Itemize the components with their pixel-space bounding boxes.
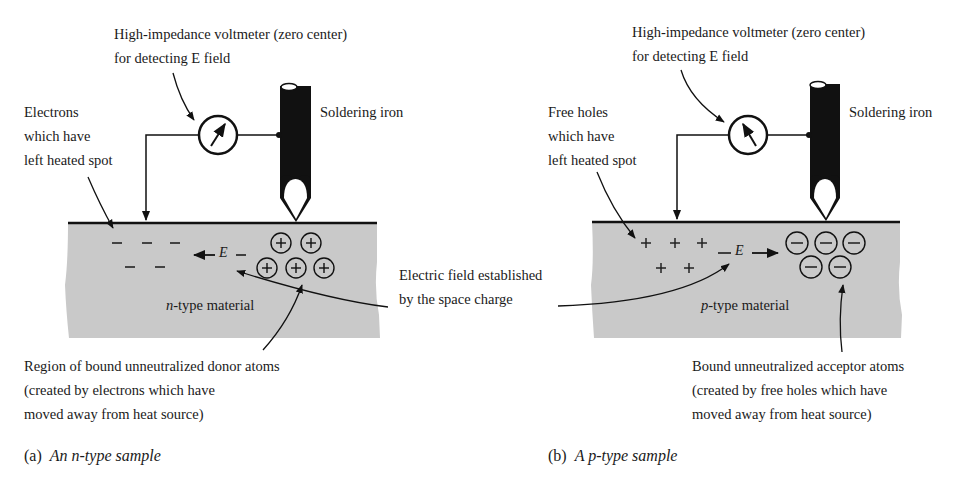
bound-label-line1: Bound unneutralized acceptor atoms [692,354,904,378]
n-type-material-slab [65,223,380,338]
material-type-suffix: -type material [708,297,789,313]
field-annotation-line1: Electric field established [399,263,542,287]
panel-a-iron-label: Soldering iron [320,100,403,124]
panel-b-voltmeter-label: High-impedance voltmeter (zero center) f… [632,20,865,68]
field-annotation-line2: by the space charge [399,287,542,311]
soldering-iron-icon [280,84,311,223]
soldering-iron-icon [810,82,840,222]
carrier-label-line1: Free holes [548,100,637,124]
panel-a-material-label: n-type material [166,297,254,314]
carrier-label-line2: which have [548,124,637,148]
panel-a-voltmeter-label: High-impedance voltmeter (zero center) f… [114,22,347,70]
bound-label-line1: Region of bound unneutralized donor atom… [24,354,280,378]
voltmeter-icon [199,116,237,154]
bound-label-line3: moved away from heat source) [24,402,280,426]
voltmeter-label-line1: High-impedance voltmeter (zero center) [114,22,347,46]
carrier-label-line3: left heated spot [24,148,113,172]
iron-label-text: Soldering iron [320,100,403,124]
panel-b-iron-label: Soldering iron [849,100,932,124]
caption-text: An n-type sample [50,447,161,464]
carrier-label-line2: which have [24,124,113,148]
p-type-material-slab [591,222,902,338]
panel-b-caption: (b) A p-type sample [548,447,677,465]
panel-a-carrier-label: Electrons which have left heated spot [24,100,113,172]
iron-label-text: Soldering iron [849,100,932,124]
carrier-label-line3: left heated spot [548,148,637,172]
voltmeter-label-line2: for detecting E field [632,44,865,68]
bound-label-line2: (created by electrons which have [24,378,280,402]
material-type-suffix: -type material [173,297,254,313]
bound-label-line2: (created by free holes which have [692,378,904,402]
carrier-label-line1: Electrons [24,100,113,124]
panel-b-field-label: E [735,243,744,259]
panel-a-field-label: E [219,245,228,261]
voltmeter-icon [729,116,767,154]
caption-letter: (b) [548,447,567,464]
caption-text: A p-type sample [575,447,678,464]
bound-label-line3: moved away from heat source) [692,402,904,426]
field-annotation-label: Electric field established by the space … [399,263,542,311]
caption-letter: (a) [24,447,42,464]
voltmeter-label-line2: for detecting E field [114,46,347,70]
panel-a-caption: (a) An n-type sample [24,447,161,465]
panel-a-bound-label: Region of bound unneutralized donor atom… [24,354,280,426]
panel-b-carrier-label: Free holes which have left heated spot [548,100,637,172]
panel-b-bound-label: Bound unneutralized acceptor atoms (crea… [692,354,904,426]
voltmeter-label-line1: High-impedance voltmeter (zero center) [632,20,865,44]
panel-b-material-label: p-type material [701,297,789,314]
